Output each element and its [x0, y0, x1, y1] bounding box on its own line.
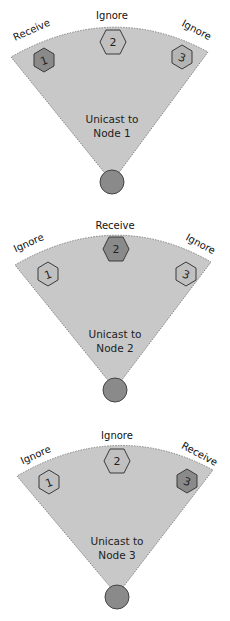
node-2: 2 [104, 449, 130, 473]
node-2: 2 [103, 237, 129, 261]
node-2-label: Receive [95, 220, 134, 231]
unicast-title-line1: Unicast to [89, 328, 142, 340]
panel-unicast-node-3: Ignore Ignore Receive 1 2 3 Unicast to N… [0, 414, 230, 621]
source-node [105, 585, 129, 609]
panel-unicast-node-2: Ignore Receive Ignore 1 2 3 Unicast to N… [0, 207, 230, 414]
node-1-label: Ignore [12, 231, 46, 254]
wedge-diagram: Ignore Ignore Receive 1 2 3 Unicast to N… [0, 414, 230, 621]
node-2-number: 2 [114, 455, 121, 468]
source-node [103, 378, 127, 402]
node-2-label: Ignore [96, 10, 128, 21]
unicast-title-line2: Node 3 [98, 549, 135, 561]
unicast-title-line1: Unicast to [91, 535, 144, 547]
wedge-diagram: Ignore Receive Ignore 1 2 3 Unicast to N… [0, 207, 230, 414]
wedge-diagram: Receive Ignore Ignore 1 2 3 Unicast to N… [0, 0, 230, 207]
node-1-label: Receive [11, 17, 51, 43]
node-2: 2 [100, 30, 126, 54]
node-3-label: Ignore [180, 18, 213, 43]
source-node [100, 170, 124, 194]
node-2-label: Ignore [101, 430, 133, 441]
unicast-title-line1: Unicast to [86, 113, 139, 125]
unicast-title-line2: Node 2 [96, 342, 133, 354]
unicast-title-line2: Node 1 [93, 127, 130, 139]
panel-unicast-node-1: Receive Ignore Ignore 1 2 3 Unicast to N… [0, 0, 230, 207]
node-2-number: 2 [110, 36, 117, 49]
node-2-number: 2 [113, 243, 120, 256]
